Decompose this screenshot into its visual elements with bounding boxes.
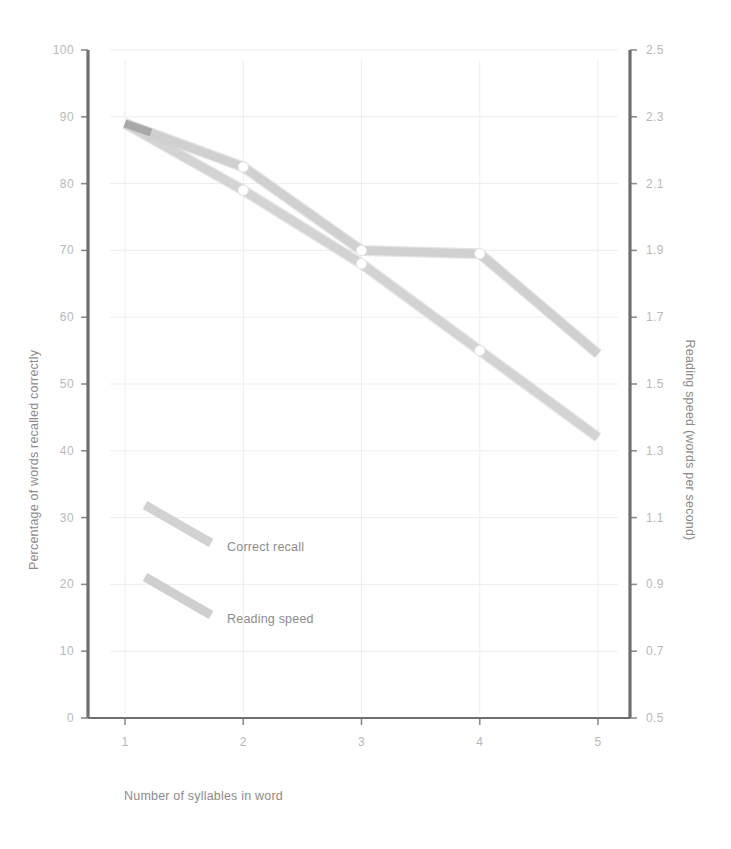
right-axis-title: Reading speed (words per second) bbox=[683, 340, 697, 541]
data-point-marker[interactable] bbox=[238, 185, 248, 195]
left-axis-title: Percentage of words recalled correctly bbox=[27, 349, 41, 570]
left-axis-tick-label: 10 bbox=[60, 644, 74, 658]
left-axis-tick-label: 80 bbox=[60, 177, 74, 191]
x-axis-tick-label: 4 bbox=[476, 735, 483, 749]
right-axis-tick-label: 0.9 bbox=[646, 577, 664, 591]
right-axis-tick-label: 1.5 bbox=[646, 377, 664, 391]
left-axis-tick-label: 0 bbox=[67, 711, 74, 725]
x-axis-tick-label: 3 bbox=[358, 735, 365, 749]
right-axis-tick-label: 0.5 bbox=[646, 711, 664, 725]
legend-swatch bbox=[145, 505, 211, 543]
x-axis-tick-labels: 12345 bbox=[121, 735, 601, 749]
left-axis-tick-label: 70 bbox=[60, 243, 74, 257]
reading-span-line-chart: 0102030405060708090100 0.50.70.91.11.31.… bbox=[0, 0, 731, 849]
legend-label: Reading speed bbox=[227, 612, 314, 626]
left-axis-tick-label: 90 bbox=[60, 110, 74, 124]
left-axis-tick-label: 20 bbox=[60, 577, 74, 591]
x-axis-title: Number of syllables in word bbox=[124, 789, 283, 803]
right-axis-tick-label: 1.9 bbox=[646, 243, 664, 257]
x-axis-tick-label: 2 bbox=[240, 735, 247, 749]
right-axis-tick-label: 1.1 bbox=[646, 511, 664, 525]
right-axis-tick-label: 1.7 bbox=[646, 310, 664, 324]
left-axis-tick-label: 50 bbox=[60, 377, 74, 391]
right-axis-tick-label: 2.5 bbox=[646, 43, 664, 57]
left-axis-tick-label: 60 bbox=[60, 310, 74, 324]
chart-figure: 0102030405060708090100 0.50.70.91.11.31.… bbox=[0, 0, 731, 849]
data-point-marker[interactable] bbox=[238, 162, 248, 172]
data-point-marker[interactable] bbox=[356, 245, 366, 255]
left-axis-tick-label: 100 bbox=[53, 43, 74, 57]
chart-legend: Correct recallReading speed bbox=[145, 505, 314, 626]
x-axis-tick-label: 5 bbox=[594, 735, 601, 749]
right-axis-tick-label: 2.1 bbox=[646, 177, 664, 191]
legend-swatch bbox=[145, 577, 211, 615]
left-axis-tick-labels: 0102030405060708090100 bbox=[53, 43, 74, 725]
right-axis-tick-label: 0.7 bbox=[646, 644, 664, 658]
data-point-marker[interactable] bbox=[356, 259, 366, 269]
x-axis-tick-label: 1 bbox=[121, 735, 128, 749]
right-axis-tick-label: 2.3 bbox=[646, 110, 664, 124]
left-axis-tick-label: 30 bbox=[60, 511, 74, 525]
data-point-marker[interactable] bbox=[475, 345, 485, 355]
right-axis-tick-label: 1.3 bbox=[646, 444, 664, 458]
left-axis-tick-label: 40 bbox=[60, 444, 74, 458]
right-axis-tick-labels: 0.50.70.91.11.31.51.71.92.12.32.5 bbox=[646, 43, 664, 725]
data-point-marker[interactable] bbox=[475, 249, 485, 259]
legend-label: Correct recall bbox=[227, 540, 304, 554]
